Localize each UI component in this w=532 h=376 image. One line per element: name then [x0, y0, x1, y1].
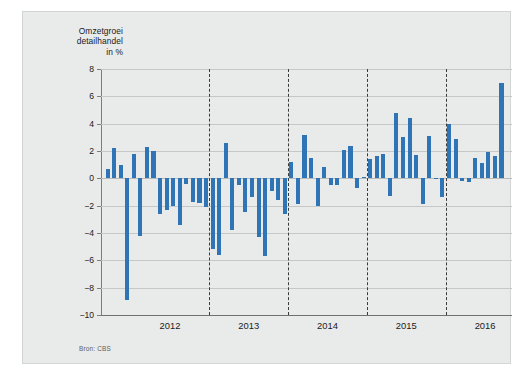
- bar: [106, 169, 110, 179]
- bar: [493, 156, 497, 178]
- y-axis-label: −6: [84, 255, 94, 265]
- bar: [381, 154, 385, 179]
- x-axis-label-2013: 2013: [238, 320, 259, 331]
- x-axis-label-2016: 2016: [475, 320, 496, 331]
- bar: [408, 118, 412, 178]
- bar: [145, 147, 149, 178]
- bar: [388, 178, 392, 196]
- y-axis-label: 8: [89, 64, 94, 74]
- bar: [362, 177, 366, 178]
- x-axis-label-2015: 2015: [396, 320, 417, 331]
- year-separator-2015: [446, 69, 447, 315]
- gridline--4: [101, 233, 512, 234]
- bar: [217, 178, 221, 255]
- y-axis-label: −2: [84, 201, 94, 211]
- chart-frame: Omzetgroei detailhandel in % 86420−2−4−6…: [22, 11, 511, 364]
- bar: [230, 178, 234, 230]
- bar: [191, 178, 195, 201]
- y-tick-2: [97, 151, 101, 152]
- bar: [355, 178, 359, 188]
- y-tick--10: [97, 315, 101, 316]
- bar: [335, 178, 339, 185]
- bar: [296, 178, 300, 204]
- plot-area: 86420−2−4−6−8−10 20122013201420152016: [101, 69, 512, 315]
- chart-title-line-3: in %: [41, 47, 123, 57]
- gridline-6: [101, 96, 512, 97]
- bar: [171, 178, 175, 205]
- bar: [276, 178, 280, 200]
- bar: [427, 136, 431, 178]
- y-tick-4: [97, 124, 101, 125]
- bar: [158, 178, 162, 214]
- bar: [499, 83, 503, 179]
- bar: [440, 178, 444, 197]
- bar: [250, 178, 254, 197]
- x-axis-label-2012: 2012: [160, 320, 181, 331]
- gridline--10: [101, 315, 512, 316]
- bar: [302, 135, 306, 179]
- bar: [375, 156, 379, 178]
- y-tick--2: [97, 206, 101, 207]
- bar: [112, 148, 116, 178]
- y-axis-label: 6: [89, 91, 94, 101]
- bar: [178, 178, 182, 224]
- source-note: Bron: CBS: [79, 345, 111, 352]
- bar: [480, 163, 484, 178]
- bar: [184, 178, 188, 183]
- bar: [257, 178, 261, 237]
- bar: [414, 155, 418, 178]
- y-tick-0: [97, 178, 101, 179]
- bar: [197, 178, 201, 203]
- bar: [342, 150, 346, 179]
- y-axis-label: −8: [84, 283, 94, 293]
- y-axis-label: −4: [84, 228, 94, 238]
- bar: [270, 178, 274, 190]
- gridline--6: [101, 260, 512, 261]
- bar: [237, 178, 241, 185]
- bar: [151, 151, 155, 178]
- chart-title-line-1: Omzetgroei: [41, 26, 123, 36]
- y-axis-label: −10: [79, 310, 94, 320]
- bar: [447, 124, 451, 179]
- chart-title: Omzetgroei detailhandel in %: [41, 26, 123, 57]
- x-axis-label-2014: 2014: [317, 320, 338, 331]
- y-tick--8: [97, 288, 101, 289]
- bar: [473, 158, 477, 179]
- bar: [348, 146, 352, 179]
- gridline-8: [101, 69, 512, 70]
- bar: [125, 178, 129, 300]
- bar: [243, 178, 247, 212]
- bar: [394, 113, 398, 179]
- bar: [401, 137, 405, 178]
- bar: [224, 143, 228, 179]
- y-axis-label: 4: [89, 119, 94, 129]
- bar: [316, 178, 320, 205]
- y-tick-8: [97, 69, 101, 70]
- bar: [204, 178, 208, 207]
- gridline-0: [101, 178, 512, 179]
- year-separator-2013: [288, 69, 289, 315]
- y-tick-6: [97, 96, 101, 97]
- bar: [165, 178, 169, 209]
- bar: [119, 165, 123, 179]
- y-tick--4: [97, 233, 101, 234]
- y-tick--6: [97, 260, 101, 261]
- bar: [454, 139, 458, 179]
- bar: [368, 159, 372, 178]
- y-axis-line: [101, 69, 102, 315]
- bar: [322, 167, 326, 178]
- bar: [263, 178, 267, 256]
- bar: [132, 154, 136, 179]
- year-separator-2014: [367, 69, 368, 315]
- bar: [434, 178, 438, 179]
- y-axis-label: 0: [89, 173, 94, 183]
- bar: [460, 178, 464, 181]
- y-axis-label: 2: [89, 146, 94, 156]
- bar: [309, 158, 313, 179]
- gridline--8: [101, 288, 512, 289]
- bar: [211, 178, 215, 249]
- bar: [486, 152, 490, 178]
- bar: [283, 178, 287, 214]
- bar: [421, 178, 425, 204]
- bar: [467, 178, 471, 182]
